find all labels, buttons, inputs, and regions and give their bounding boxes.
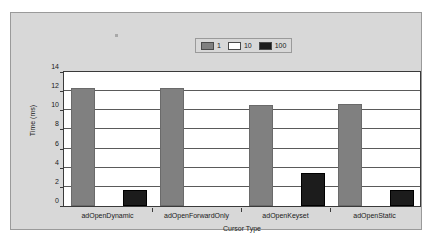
x-axis-tick-mark	[241, 208, 242, 212]
bar-adOpenDynamic-series-100	[123, 190, 147, 206]
x-axis-title: Cursor Type	[63, 225, 421, 232]
chart-canvas: 1 10 100 02468101214 Time (ms) Cursor Ty…	[10, 12, 422, 230]
plot-area	[63, 71, 421, 207]
gridline	[64, 167, 420, 168]
bar-adOpenDynamic-series-1	[71, 88, 95, 206]
legend-label-series-10: 10	[244, 42, 252, 49]
image-artifact-speck	[115, 34, 118, 37]
x-axis-tick-mark	[152, 208, 153, 212]
bar-adOpenStatic-series-1	[338, 104, 362, 206]
y-axis-tick-label: 4	[55, 158, 59, 165]
y-axis-title: Time (ms)	[29, 91, 36, 151]
y-axis-tick-label: 0	[55, 197, 59, 204]
legend-entry-series-10: 10	[228, 42, 252, 50]
legend-swatch-series-100	[259, 42, 272, 50]
legend-entry-series-1: 1	[201, 42, 221, 50]
y-axis-tick-label: 12	[51, 82, 59, 89]
x-axis-tick-label-adOpenDynamic: adOpenDynamic	[81, 212, 133, 219]
y-axis-tick-label: 14	[51, 63, 59, 70]
y-axis-tick-label: 6	[55, 139, 59, 146]
legend-swatch-series-1	[201, 42, 214, 50]
x-axis-tick-mark	[330, 208, 331, 212]
legend-entry-series-100: 100	[259, 42, 287, 50]
gridline	[64, 109, 420, 110]
gridline	[64, 128, 420, 129]
x-axis-tick-label-adOpenKeyset: adOpenKeyset	[262, 212, 308, 219]
y-axis-tick-labels: 02468101214	[41, 71, 59, 207]
gridline	[64, 90, 420, 91]
legend-label-series-100: 100	[275, 42, 287, 49]
legend-swatch-series-10	[228, 42, 241, 50]
bar-adOpenKeyset-series-1	[249, 105, 273, 206]
gridline	[64, 186, 420, 187]
bar-adOpenKeyset-series-100	[301, 173, 325, 207]
x-axis-tick-label-adOpenForwardOnly: adOpenForwardOnly	[164, 212, 229, 219]
y-axis-tick-label: 2	[55, 177, 59, 184]
bar-adOpenForwardOnly-series-1	[160, 88, 184, 206]
x-axis-tick-label-adOpenStatic: adOpenStatic	[353, 212, 395, 219]
y-axis-tick-label: 10	[51, 101, 59, 108]
legend-label-series-1: 1	[217, 42, 221, 49]
chart-legend: 1 10 100	[195, 38, 292, 53]
y-axis-tick-label: 8	[55, 120, 59, 127]
gridline	[64, 148, 420, 149]
bar-adOpenStatic-series-100	[390, 190, 414, 206]
